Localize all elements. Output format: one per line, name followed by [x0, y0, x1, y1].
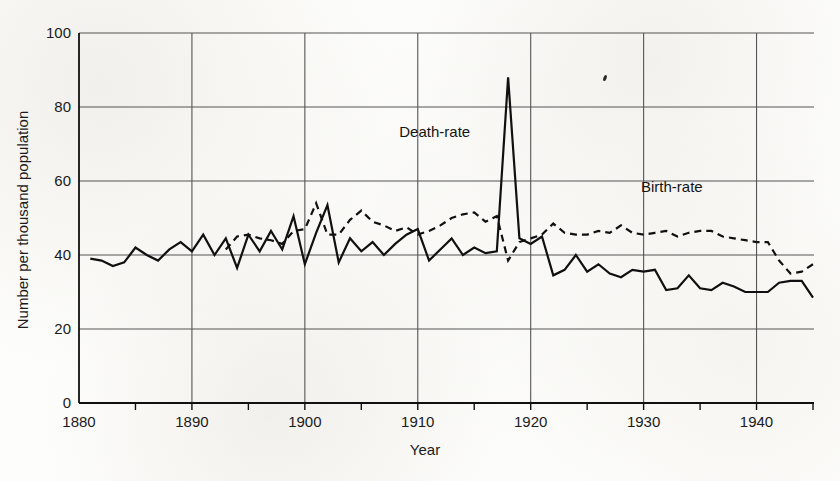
horizontal-gridlines	[79, 33, 814, 329]
scan-artifacts	[602, 74, 607, 81]
x-tick-label-1930: 1930	[627, 413, 660, 430]
y-tick-label-60: 60	[54, 172, 71, 189]
y-tick-label-40: 40	[54, 246, 71, 263]
y-tick-label-20: 20	[54, 320, 71, 337]
data-series-layer	[90, 77, 813, 297]
birth-death-rate-line-chart: 020406080100 188018901900191019201930194…	[0, 0, 840, 481]
y-tick-label-80: 80	[54, 98, 71, 115]
death-rate-label: Death-rate	[399, 123, 470, 140]
y-axis-title: Number per thousand population	[14, 111, 31, 329]
x-tick-label-1900: 1900	[288, 413, 321, 430]
vertical-gridlines	[192, 33, 757, 403]
birth-rate-label: Birth-rate	[641, 178, 703, 195]
y-tick-label-0: 0	[63, 394, 71, 411]
x-tick-label-1940: 1940	[740, 413, 773, 430]
x-axis-ticks	[135, 403, 813, 410]
series-line-death-rate	[90, 77, 813, 297]
x-tick-label-1890: 1890	[175, 413, 208, 430]
x-axis-tick-labels: 1880189019001910192019301940	[62, 413, 773, 430]
x-tick-label-1920: 1920	[514, 413, 547, 430]
chart-page: 020406080100 188018901900191019201930194…	[0, 0, 840, 481]
y-tick-label-100: 100	[46, 24, 71, 41]
x-axis-title: Year	[410, 441, 440, 458]
series-annotations: Death-rateBirth-rate	[399, 123, 702, 196]
x-tick-label-1910: 1910	[401, 413, 434, 430]
y-axis-tick-labels: 020406080100	[46, 24, 71, 411]
axis-lines	[79, 33, 814, 403]
scan-speck	[602, 74, 607, 81]
x-tick-label-1880: 1880	[62, 413, 95, 430]
